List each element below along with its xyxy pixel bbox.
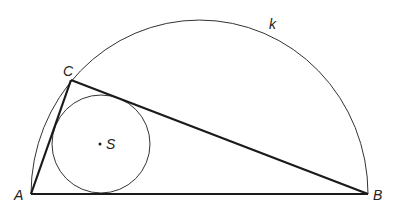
- label-s: S: [106, 136, 116, 152]
- label-a: A: [13, 187, 23, 203]
- geometry-diagram: A B C S k: [0, 0, 401, 207]
- side-cb: [71, 80, 368, 194]
- semicircle-k: [31, 20, 368, 194]
- label-c: C: [63, 63, 74, 79]
- center-point-s: [99, 143, 102, 146]
- label-b: B: [373, 187, 382, 203]
- label-k: k: [269, 16, 277, 32]
